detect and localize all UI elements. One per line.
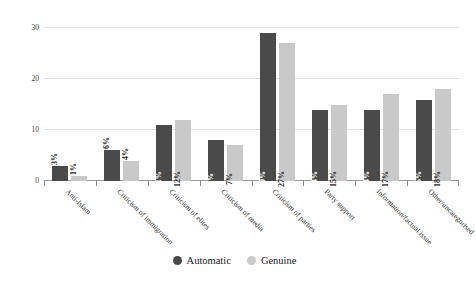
bar-automatic: 6%	[104, 150, 120, 181]
bar-group: 14%15%	[303, 18, 355, 181]
x-tick-mark	[200, 181, 201, 186]
bar-value-label: 3%	[50, 153, 60, 165]
bar-genuine: 12%	[175, 120, 191, 181]
bar-genuine: 17%	[383, 94, 399, 181]
x-tick-mark	[44, 181, 45, 186]
plot-area: 0102030 3%1%6%4%11%12%8%7%29%27%14%15%14…	[44, 18, 459, 181]
x-label-cell: Other/uncategorised	[407, 187, 459, 249]
bar-automatic: 3%	[52, 166, 68, 181]
bar-groups: 3%1%6%4%11%12%8%7%29%27%14%15%14%17%16%1…	[44, 18, 459, 181]
bar-value-label: 6%	[102, 137, 112, 149]
bar-value-label: 1%	[69, 163, 79, 175]
x-label-cell: Criticism of media	[200, 187, 252, 249]
chart-legend: AutomaticGenuine	[0, 255, 469, 266]
legend-swatch-automatic	[173, 256, 182, 265]
bar-automatic: 8%	[208, 140, 224, 181]
bar-automatic: 16%	[416, 100, 432, 182]
bar-group: 8%7%	[200, 18, 252, 181]
legend-item[interactable]: Genuine	[247, 255, 297, 266]
x-tick-mark	[407, 181, 408, 186]
bar-group: 29%27%	[252, 18, 304, 181]
x-tick-mark	[458, 181, 459, 186]
bar-group: 3%1%	[44, 18, 96, 181]
x-label-cell: Criticism of elites	[148, 187, 200, 249]
bar-automatic: 14%	[312, 110, 328, 181]
legend-swatch-genuine	[247, 256, 256, 265]
bar-genuine: 4%	[123, 161, 139, 181]
x-label-cell: Party support	[303, 187, 355, 249]
x-axis-category-label: Other/uncategorised	[427, 187, 476, 236]
x-tick-mark	[96, 181, 97, 186]
x-label-cell: Information/factual issue	[355, 187, 407, 249]
x-label-cell: Anti-Islam	[44, 187, 96, 249]
bar-group: 11%12%	[148, 18, 200, 181]
bar-automatic: 11%	[156, 125, 172, 181]
bar-group: 14%17%	[355, 18, 407, 181]
y-tick-label: 0	[35, 176, 39, 185]
x-tick-mark	[252, 181, 253, 186]
bar-automatic: 14%	[364, 110, 380, 181]
legend-label: Genuine	[261, 255, 297, 266]
bar-group: 16%18%	[407, 18, 459, 181]
x-axis-labels: Anti-IslamCriticism of immigrationCritic…	[44, 187, 459, 249]
bar-genuine: 18%	[435, 89, 451, 181]
x-axis-category-label: Party support	[323, 187, 358, 222]
y-tick-label: 30	[32, 23, 40, 32]
x-tick-mark	[355, 181, 356, 186]
bar-genuine: 15%	[331, 105, 347, 181]
bar-genuine: 7%	[227, 145, 243, 181]
y-tick-label: 10	[32, 125, 40, 134]
bar-group: 6%4%	[96, 18, 148, 181]
y-tick-label: 20	[32, 74, 40, 83]
legend-item[interactable]: Automatic	[173, 255, 231, 266]
bar-value-label: 4%	[121, 148, 131, 160]
x-label-cell: Criticism of parties	[252, 187, 304, 249]
legend-label: Automatic	[187, 255, 231, 266]
x-axis-category-label: Anti-Islam	[64, 187, 93, 216]
x-tick-mark	[148, 181, 149, 186]
x-label-cell: Criticism of immigration	[96, 187, 148, 249]
x-tick-mark	[303, 181, 304, 186]
bar-automatic: 29%	[260, 33, 276, 181]
bar-genuine: 27%	[279, 43, 295, 181]
